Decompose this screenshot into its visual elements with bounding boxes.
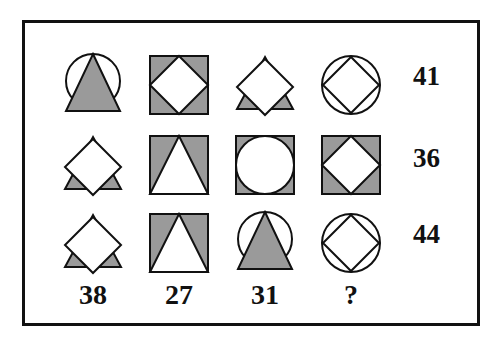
col-sum-3: 31 — [231, 281, 299, 309]
cell-r2c3 — [231, 131, 299, 199]
cell-r1c2 — [145, 51, 213, 119]
cell-r2c4 — [317, 131, 385, 199]
cell-r1c3 — [231, 51, 299, 119]
cell-r3c3 — [231, 209, 299, 277]
col-sum-2: 27 — [145, 281, 213, 309]
col-sum-unknown: ? — [317, 281, 385, 309]
row-sum-2: 36 — [413, 145, 473, 172]
col-sum-1: 38 — [59, 281, 127, 309]
row-sum-1: 41 — [413, 63, 473, 90]
cell-r3c2 — [145, 209, 213, 277]
cell-r3c4 — [317, 209, 385, 277]
row-sum-3: 44 — [413, 221, 473, 248]
puzzle-frame: 41 36 — [22, 20, 480, 326]
shape-grid: 41 36 — [25, 23, 477, 323]
cell-r3c1 — [59, 209, 127, 277]
cell-r2c2 — [145, 131, 213, 199]
cell-r1c1 — [59, 51, 127, 119]
cell-r2c1 — [59, 131, 127, 199]
circle-white-icon — [236, 136, 294, 194]
cell-r1c4 — [317, 51, 385, 119]
